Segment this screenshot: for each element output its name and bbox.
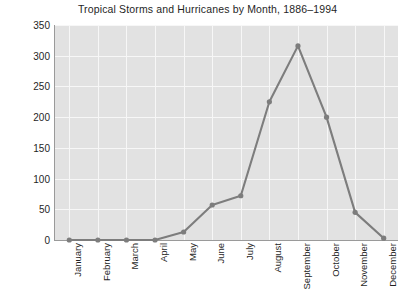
x-tick-label: June [215, 243, 226, 264]
x-tick-label: February [101, 243, 112, 281]
x-tick-label: March [129, 243, 140, 269]
data-point-marker [324, 115, 329, 120]
x-tick-label: August [272, 243, 283, 273]
x-tick-label: April [158, 243, 169, 262]
y-tick-label: 300 [33, 50, 50, 61]
x-tick-label: July [244, 243, 255, 260]
data-point-marker [67, 237, 72, 242]
data-point-marker [95, 237, 100, 242]
x-tick-label: October [330, 243, 341, 277]
y-tick-label: 350 [33, 20, 50, 31]
data-point-marker [353, 210, 358, 215]
y-axis-title: Number of Storms [4, 78, 20, 188]
y-tick-label: 50 [39, 204, 50, 215]
data-point-marker [152, 237, 157, 242]
x-tick-label: January [72, 243, 83, 277]
chart-title: Tropical Storms and Hurricanes by Month,… [0, 3, 415, 15]
data-point-marker [210, 202, 215, 207]
series-polyline [69, 46, 383, 240]
data-point-marker [267, 99, 272, 104]
x-tick-label: September [301, 243, 312, 289]
y-tick-label: 150 [33, 142, 50, 153]
data-point-marker [238, 193, 243, 198]
x-tick-label: May [187, 243, 198, 261]
data-point-marker [381, 236, 386, 241]
y-tick-label: 200 [33, 112, 50, 123]
x-tick-label: November [358, 243, 369, 287]
data-point-marker [181, 229, 186, 234]
data-point-marker [295, 43, 300, 48]
x-tick-label: December [387, 243, 398, 287]
y-tick-label: 0 [44, 235, 50, 246]
series-markers [67, 43, 387, 242]
storms-line-series [55, 25, 398, 240]
chart-figure: Tropical Storms and Hurricanes by Month,… [0, 0, 415, 308]
y-tick-label: 100 [33, 173, 50, 184]
y-axis-tick-labels: 050100150200250300350 [22, 25, 50, 240]
x-axis-tick-labels: JanuaryFebruaryMarchAprilMayJuneJulyAugu… [54, 243, 397, 307]
y-tick-label: 250 [33, 81, 50, 92]
data-point-marker [124, 237, 129, 242]
plot-area [54, 25, 398, 241]
